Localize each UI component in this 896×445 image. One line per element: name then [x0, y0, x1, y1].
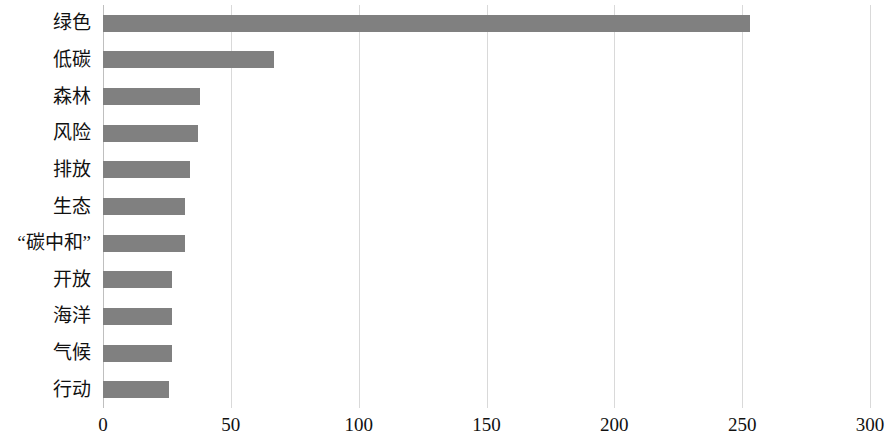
category-label: 行动: [0, 379, 97, 401]
x-tick-label: 50: [221, 412, 240, 438]
bar-row: [103, 335, 870, 372]
category-label: 排放: [0, 159, 97, 181]
category-label: 生态: [0, 196, 97, 218]
category-label: 海洋: [0, 305, 97, 327]
x-tick-label: 250: [728, 412, 757, 438]
category-label: 低碳: [0, 49, 97, 71]
bar-row: [103, 152, 870, 189]
bar[interactable]: [103, 345, 172, 362]
category-label: “碳中和”: [0, 232, 97, 254]
bar[interactable]: [103, 271, 172, 288]
category-label: 气候: [0, 342, 97, 364]
plot-area: [103, 5, 870, 408]
bar-row: [103, 261, 870, 298]
x-tick-label: 200: [600, 412, 629, 438]
category-label: 开放: [0, 269, 97, 291]
bar[interactable]: [103, 161, 190, 178]
bar-row: [103, 188, 870, 225]
category-label: 绿色: [0, 12, 97, 34]
bar[interactable]: [103, 88, 200, 105]
value-axis-labels: 050100150200250300: [103, 412, 870, 442]
x-tick-label: 150: [472, 412, 501, 438]
bar[interactable]: [103, 235, 185, 252]
bar[interactable]: [103, 51, 274, 68]
category-label: 森林: [0, 86, 97, 108]
bar[interactable]: [103, 15, 750, 32]
x-tick-label: 100: [344, 412, 373, 438]
bar[interactable]: [103, 198, 185, 215]
bar-row: [103, 78, 870, 115]
bar-row: [103, 371, 870, 408]
x-tick-label: 300: [856, 412, 885, 438]
bar-row: [103, 42, 870, 79]
bar-row: [103, 298, 870, 335]
bar-row: [103, 5, 870, 42]
bar[interactable]: [103, 125, 198, 142]
bar-row: [103, 225, 870, 262]
bar[interactable]: [103, 381, 169, 398]
category-label: 风险: [0, 122, 97, 144]
bar-chart: 绿色低碳森林风险排放生态“碳中和”开放海洋气候行动 05010015020025…: [0, 0, 896, 445]
x-tick-label: 0: [98, 412, 108, 438]
bar[interactable]: [103, 308, 172, 325]
gridline-300: [870, 5, 871, 408]
category-axis-labels: 绿色低碳森林风险排放生态“碳中和”开放海洋气候行动: [0, 5, 97, 408]
bar-series: [103, 5, 870, 408]
bar-row: [103, 115, 870, 152]
